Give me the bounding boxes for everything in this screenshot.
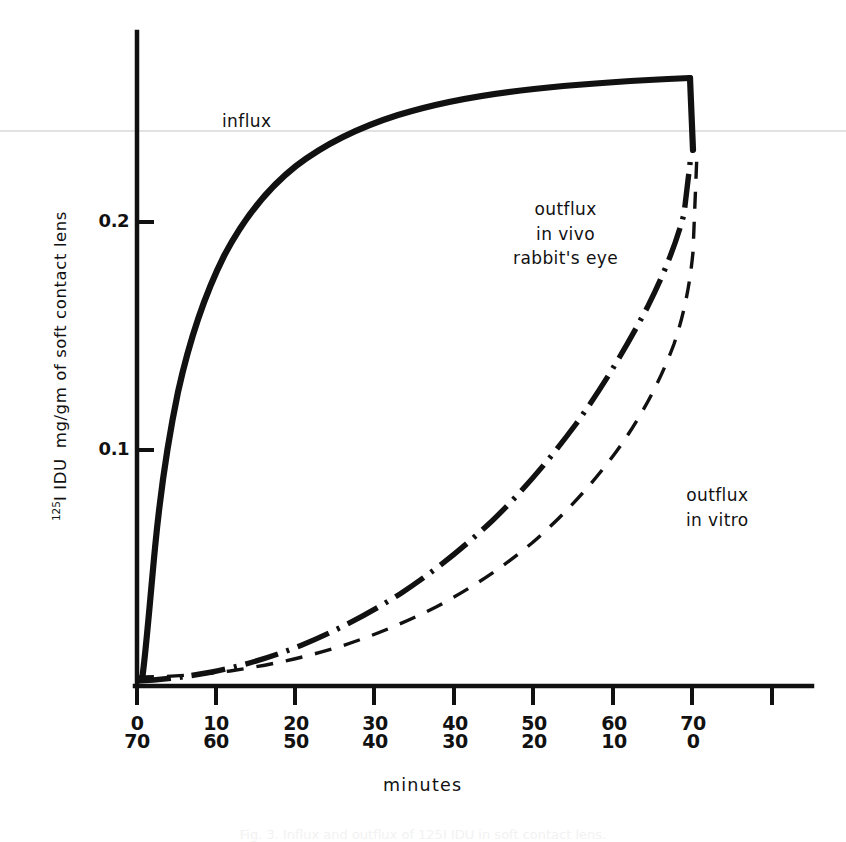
x-tick-bottom-1: 60 xyxy=(184,732,248,750)
y-tick-label-0-2: 0.2 xyxy=(77,210,129,231)
x-tick-label-4: 40 30 xyxy=(423,714,487,750)
x-tick-bottom-3: 40 xyxy=(343,732,407,750)
x-tick-bottom-2: 50 xyxy=(264,732,328,750)
x-axis-ticks xyxy=(137,686,772,703)
x-tick-label-7: 70 0 xyxy=(661,714,725,750)
annotation-outflux-in-vivo-line2: in vivo xyxy=(513,222,618,247)
x-tick-bottom-5: 20 xyxy=(502,732,566,750)
y-tick-label-0-1: 0.1 xyxy=(77,438,129,459)
x-tick-bottom-4: 30 xyxy=(423,732,487,750)
annotation-outflux-in-vitro-line2: in vitro xyxy=(686,508,749,533)
annotation-outflux-in-vivo: outflux in vivo rabbit's eye xyxy=(513,197,618,271)
x-tick-label-6: 60 10 xyxy=(582,714,646,750)
annotation-outflux-in-vitro: outflux in vitro xyxy=(686,483,749,532)
x-tick-label-1: 10 60 xyxy=(184,714,248,750)
y-axis-title-isotope: I IDU xyxy=(51,458,70,501)
x-tick-bottom-0: 70 xyxy=(105,732,169,750)
annotation-outflux-in-vivo-line3: rabbit's eye xyxy=(513,246,618,271)
y-axis-title: 125I IDUmg/gm of soft contact lens xyxy=(50,86,70,646)
x-tick-label-3: 30 40 xyxy=(343,714,407,750)
figure-chart: 125I IDUmg/gm of soft contact lens 0.2 0… xyxy=(0,0,846,842)
x-tick-bottom-6: 10 xyxy=(582,732,646,750)
annotation-outflux-in-vitro-line1: outflux xyxy=(686,483,749,508)
series-influx-dropoff xyxy=(690,78,693,150)
figure-caption: Fig. 3. Influx and outflux of 125I IDU i… xyxy=(0,827,846,842)
annotation-influx: influx xyxy=(222,109,271,134)
annotation-influx-text: influx xyxy=(222,109,271,134)
x-tick-label-2: 20 50 xyxy=(264,714,328,750)
annotation-outflux-in-vivo-line1: outflux xyxy=(513,197,618,222)
x-tick-bottom-7: 0 xyxy=(661,732,725,750)
x-tick-label-5: 50 20 xyxy=(502,714,566,750)
y-axis-title-units: mg/gm of soft contact lens xyxy=(51,211,70,448)
y-axis-title-superscript: 125 xyxy=(50,501,62,521)
x-axis-title: minutes xyxy=(383,775,462,795)
x-tick-label-0: 0 70 xyxy=(105,714,169,750)
